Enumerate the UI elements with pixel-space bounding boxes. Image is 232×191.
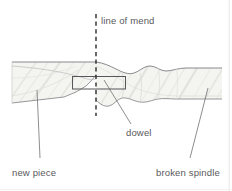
diagram-canvas: [0, 0, 232, 191]
new-piece-shape: [4, 54, 104, 110]
broken-spindle-shape: [96, 56, 232, 114]
label-new-piece: new piece: [12, 168, 56, 178]
label-dowel: dowel: [126, 128, 152, 138]
label-broken-spindle: broken spindle: [156, 168, 220, 178]
label-line-of-mend: line of mend: [101, 16, 155, 26]
spindle-repair-diagram: line of mend dowel new piece broken spin…: [0, 0, 232, 191]
